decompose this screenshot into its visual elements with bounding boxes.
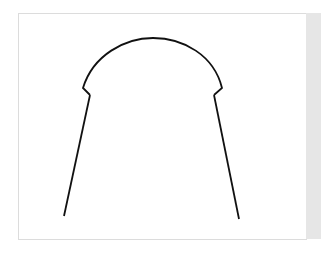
right-leg [214,95,239,219]
dome-arc [83,38,222,95]
dome-outline-drawing [0,0,321,259]
left-leg [64,95,90,216]
